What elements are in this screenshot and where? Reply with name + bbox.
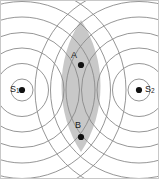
source-2-subscript: 2 [151,87,155,94]
source-2-label: S2 [145,85,155,95]
interference-diagram: S1 S2 A B [0,0,159,179]
source-1-label: S1 [10,85,20,95]
point-b-dot [78,134,84,140]
wavefront-canvas [1,1,159,179]
source-1-subscript: 1 [16,87,20,94]
source-2-dot [136,87,142,93]
point-a-dot [78,62,84,68]
point-b-label: B [75,121,81,130]
point-a-label: A [71,51,77,60]
